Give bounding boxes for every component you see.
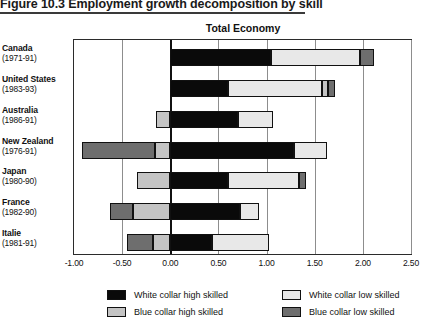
bar-segment-wh [170, 203, 239, 220]
legend-swatch [107, 290, 126, 300]
category-years: (1980-90) [2, 176, 71, 186]
legend-swatch [282, 307, 301, 317]
bar-segment-wh [170, 49, 271, 66]
category-name: France [2, 197, 71, 207]
category-label-italie: Italie(1981-91) [2, 228, 71, 248]
category-years: (1971-91) [2, 53, 71, 63]
bar-segment-bl [360, 49, 374, 66]
category-years: (1982-90) [2, 207, 71, 217]
x-tick-label: -1.00 [65, 258, 84, 268]
legend-swatch [282, 290, 301, 300]
bar-row [74, 172, 411, 189]
bar-segment-wl [238, 111, 274, 128]
category-label-new-zealand: New Zealand(1976-91) [2, 136, 71, 156]
bar-segment-bh [156, 111, 170, 128]
caption-divider [0, 12, 305, 14]
chart-title: Total Economy [73, 22, 413, 34]
category-name: Canada [2, 43, 71, 53]
bar-segment-wl [294, 142, 328, 159]
x-tick-label: 0.50 [210, 258, 226, 268]
bar-segment-bl [82, 142, 155, 159]
bar-segment-bh [133, 203, 171, 220]
category-label-japan: Japan(1980-90) [2, 166, 71, 186]
bar-segment-bl [299, 172, 306, 189]
category-label-france: France(1982-90) [2, 197, 71, 217]
x-tick-label: 0.00 [162, 258, 178, 268]
category-name: Italie [2, 228, 71, 238]
legend-swatch [107, 307, 126, 317]
category-label-australia: Australia(1986-91) [2, 105, 71, 125]
bar-segment-wl [228, 80, 322, 97]
category-name: United States [2, 74, 71, 84]
bar-segment-wl [271, 49, 360, 66]
bar-segment-wl [212, 234, 270, 251]
bar-row [74, 142, 411, 159]
legend-label: White collar low skilled [309, 289, 400, 302]
bar-row [74, 234, 411, 251]
category-years: (1981-91) [2, 238, 71, 248]
bar-segment-wl [240, 203, 259, 220]
category-years: (1986-91) [2, 115, 71, 125]
bar-row [74, 203, 411, 220]
bar-segment-bh [137, 172, 171, 189]
bar-segment-bl [110, 203, 133, 220]
bar-segment-bh [155, 142, 170, 159]
bar-row [74, 49, 411, 66]
bar-segment-wh [170, 111, 237, 128]
legend-label: Blue collar high skilled [134, 306, 223, 319]
x-tick-label: 1.00 [259, 258, 275, 268]
bar-segment-wh [170, 142, 293, 159]
bar-segment-wh [170, 80, 228, 97]
x-tick-label: -0.50 [113, 258, 132, 268]
legend-label: White collar high skilled [134, 289, 228, 302]
figure-caption: Figure 10.3 Employment growth decomposit… [0, 0, 427, 12]
gridline-2-50 [411, 40, 412, 254]
x-tick-label: 1.50 [307, 258, 323, 268]
legend-label: Blue collar low skilled [309, 306, 395, 319]
bar-segment-bl [127, 234, 153, 251]
chart-legend: White collar high skilledBlue collar hig… [72, 289, 422, 331]
category-name: New Zealand [2, 136, 71, 146]
bar-row [74, 80, 411, 97]
category-years: (1976-91) [2, 146, 71, 156]
bar-segment-bl [328, 80, 335, 97]
category-years: (1983-93) [2, 84, 71, 94]
x-tick-label: 2.50 [403, 258, 419, 268]
category-label-united-states: United States(1983-93) [2, 74, 71, 94]
bar-row [74, 111, 411, 128]
bar-segment-wh [170, 172, 228, 189]
category-name: Australia [2, 105, 71, 115]
bar-segment-wh [170, 234, 211, 251]
plot-area [73, 39, 412, 255]
category-name: Japan [2, 166, 71, 176]
x-tick-label: 2.00 [355, 258, 371, 268]
bar-segment-bh [153, 234, 170, 251]
bar-segment-wl [228, 172, 299, 189]
category-label-canada: Canada(1971-91) [2, 43, 71, 63]
